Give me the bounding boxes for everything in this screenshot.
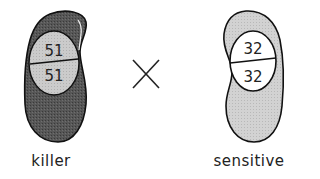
cross-operator-icon bbox=[133, 60, 159, 88]
killer-nucleus-top-value: 51 bbox=[44, 42, 63, 60]
sensitive-nucleus-top-value: 32 bbox=[243, 40, 262, 58]
killer-cell: 51 51 bbox=[25, 11, 87, 142]
sensitive-label: sensitive bbox=[213, 152, 284, 170]
killer-label: killer bbox=[31, 152, 71, 170]
sensitive-cell: 32 32 bbox=[224, 11, 284, 142]
killer-nucleus-bottom-value: 51 bbox=[44, 67, 63, 85]
sensitive-nucleus-bottom-value: 32 bbox=[243, 68, 262, 86]
